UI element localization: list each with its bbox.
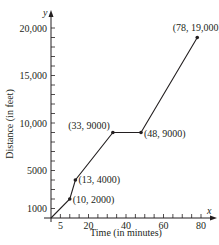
x-axis-label: Time (in minutes): [90, 227, 162, 239]
y-axis-variable: y: [42, 7, 48, 18]
y-tick-label: 10,000: [20, 118, 48, 129]
x-axis-ticks: [60, 214, 201, 218]
data-point: [111, 131, 115, 135]
x-axis-variable: x: [206, 205, 212, 216]
point-label: (10, 2000): [73, 194, 115, 206]
y-tick-label: 15,000: [20, 70, 48, 81]
x-tick-label: 5: [58, 220, 63, 231]
point-labels: (10, 2000)(13, 4000)(33, 9000)(48, 9000)…: [68, 22, 219, 207]
data-point: [74, 178, 78, 182]
y-tick-label: 20,000: [20, 23, 48, 34]
y-axis-arrow-icon: [49, 10, 54, 17]
x-tick-label: 80: [196, 220, 206, 231]
y-tick-label: 1000: [27, 203, 47, 214]
data-point: [68, 197, 72, 201]
distance-time-chart: y x 1000500010,00015,00020,000 520406080…: [0, 0, 219, 245]
y-tick-labels: 1000500010,00015,00020,000: [20, 23, 48, 215]
y-tick-label: 5000: [27, 165, 47, 176]
data-point: [195, 36, 199, 40]
point-label: (48, 9000): [144, 128, 186, 140]
y-axis-ticks: [51, 28, 55, 209]
y-axis-label: Distance (in feet): [4, 89, 16, 158]
point-label: (13, 4000): [78, 174, 120, 186]
x-axis-arrow-icon: [210, 216, 217, 221]
data-point: [139, 131, 143, 135]
point-label: (78, 19,000): [173, 22, 219, 34]
point-label: (33, 9000): [68, 120, 110, 132]
